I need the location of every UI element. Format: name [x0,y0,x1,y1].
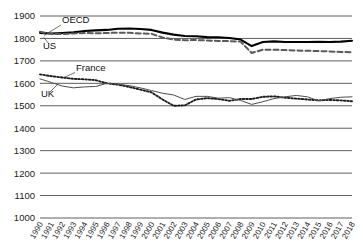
series-label-uk: UK [41,88,55,99]
y-axis-tick-label: 1600 [14,78,35,89]
series-label-france: France [76,62,106,73]
x-axis-tick-labels: 1990199119921993199419951996199719981999… [28,220,357,240]
y-axis-tick-label: 1000 [14,212,35,223]
y-axis-tick-label: 1700 [14,55,35,66]
series-label-us: US [43,40,56,51]
series-line-france [40,74,352,105]
x-axis-tick-label: 2018 [340,220,357,240]
y-axis-tick-label: 1400 [14,123,35,134]
y-axis-tick-label: 1100 [15,190,35,201]
y-axis-tick-labels: 1900180017001600150014001300120011001000 [14,10,35,223]
y-axis-tick-label: 1200 [14,168,35,179]
series-line-oecd [40,29,352,47]
y-axis-tick-label: 1300 [14,145,35,156]
chart-canvas: 1900180017001600150014001300120011001000… [0,0,363,252]
y-axis-tick-label: 1900 [14,10,35,21]
y-axis-tick-label: 1800 [14,33,35,44]
line-chart: 1900180017001600150014001300120011001000… [0,0,363,252]
gridlines-group [40,16,352,218]
y-axis-tick-label: 1500 [14,100,35,111]
leader-line-france [63,73,75,79]
series-line-uk [40,79,352,105]
series-label-oecd: OECD [62,14,90,25]
